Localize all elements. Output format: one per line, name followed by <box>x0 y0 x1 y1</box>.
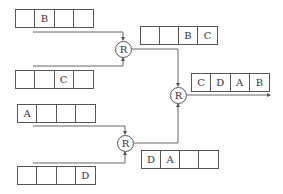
register-cell: C <box>192 74 211 91</box>
register-mid1: B C <box>140 26 218 45</box>
register-out: C D A B <box>191 73 270 92</box>
register-cell <box>35 71 54 88</box>
register-cell <box>76 105 95 122</box>
register-cell: D <box>211 74 230 91</box>
register-cell <box>180 151 199 168</box>
router-node-r1: R <box>115 41 132 58</box>
register-in4: D <box>17 166 96 185</box>
register-cell <box>37 105 56 122</box>
register-cell <box>141 27 160 44</box>
register-cell: B <box>35 10 54 27</box>
register-cell: A <box>18 105 37 122</box>
register-cell: A <box>161 151 180 168</box>
diagram-canvas: B C A D B C D A C D A B R R R <box>0 0 283 194</box>
register-cell <box>74 10 93 27</box>
register-cell <box>18 167 37 184</box>
register-cell: A <box>231 74 250 91</box>
register-cell <box>37 167 56 184</box>
register-cell: D <box>76 167 95 184</box>
register-cell <box>199 151 218 168</box>
register-cell: D <box>142 151 161 168</box>
register-cell <box>160 27 179 44</box>
register-in2: C <box>15 70 94 89</box>
register-cell: B <box>250 74 269 91</box>
register-in3: A <box>17 104 96 123</box>
register-cell: B <box>179 27 198 44</box>
register-cell <box>55 10 74 27</box>
register-cell <box>74 71 93 88</box>
register-cell <box>16 10 35 27</box>
register-cell: C <box>55 71 74 88</box>
router-node-r2: R <box>117 135 134 152</box>
register-cell <box>57 105 76 122</box>
register-mid2: D A <box>141 150 219 169</box>
router-node-r3: R <box>170 87 187 104</box>
register-cell <box>16 71 35 88</box>
register-cell <box>57 167 76 184</box>
register-in1: B <box>15 9 94 28</box>
register-cell: C <box>198 27 217 44</box>
